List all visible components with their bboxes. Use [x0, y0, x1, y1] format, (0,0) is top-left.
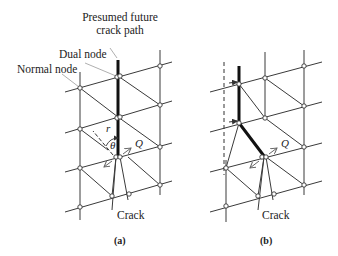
- panel-b-shift-arrow-top: [229, 82, 237, 83]
- panel-a-caption: (a): [114, 235, 126, 246]
- panel-a-q-arrow-in: [104, 161, 112, 167]
- dual-node-label: Dual node: [59, 48, 107, 61]
- panel-a-q-arrow-out: [123, 148, 131, 154]
- dual-node-leader: [85, 63, 116, 76]
- panel-a-theta-symbol: θ: [110, 139, 115, 151]
- future-path-line1: Presumed future: [70, 11, 170, 24]
- panel-b-crack-label: Crack: [262, 209, 289, 221]
- panel-b-caption: (b): [260, 235, 272, 246]
- panel-b-q-arrow-out: [269, 148, 277, 154]
- panel-b-q-symbol: Q: [281, 137, 289, 149]
- future-path-leader: [110, 48, 117, 58]
- future-path-line2: crack path: [70, 24, 170, 37]
- normal-node-label: Normal node: [17, 63, 77, 76]
- panel-a-q-symbol: Q: [135, 137, 143, 149]
- future-crack-path-label: Presumed future crack path: [70, 11, 170, 37]
- panel-b-q-arrow-in: [250, 161, 259, 168]
- panel-b-shift-arrow-mid: [229, 121, 237, 122]
- panel-a-crack-label: Crack: [117, 209, 144, 221]
- normal-node: [78, 86, 82, 90]
- panel-a-r-symbol: r: [106, 122, 110, 134]
